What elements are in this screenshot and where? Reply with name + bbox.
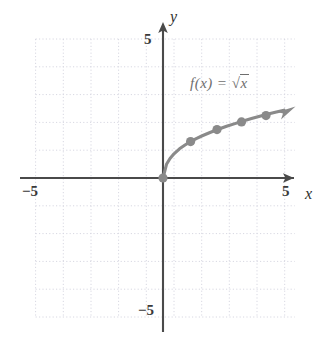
data-point-markers bbox=[158, 111, 270, 183]
y-axis-tick-label-neg5: −5 bbox=[138, 302, 154, 319]
data-point bbox=[261, 111, 270, 120]
function-notation: f(x) bbox=[190, 75, 213, 91]
data-point bbox=[237, 117, 246, 126]
data-point bbox=[212, 125, 221, 134]
equals-sign: = bbox=[213, 75, 232, 91]
axis-lines bbox=[20, 28, 294, 332]
y-axis-tick-label-5: 5 bbox=[144, 31, 152, 48]
x-axis-tick-label-neg5: −5 bbox=[22, 183, 38, 200]
graph-figure: 5 −5 5 −5 x y f(x)=√x bbox=[0, 0, 327, 345]
y-axis-label: y bbox=[170, 8, 177, 26]
function-annotation: f(x)=√x bbox=[190, 75, 249, 92]
sqrt-curve bbox=[163, 110, 284, 178]
data-point bbox=[158, 173, 167, 182]
radical-argument: x bbox=[240, 74, 249, 91]
x-axis-label: x bbox=[305, 185, 312, 203]
data-point bbox=[186, 137, 195, 146]
x-axis-tick-label-5: 5 bbox=[282, 183, 290, 200]
coordinate-plane bbox=[0, 0, 327, 345]
curve-arrowhead bbox=[278, 107, 296, 120]
radical-expression: √x bbox=[232, 75, 249, 92]
